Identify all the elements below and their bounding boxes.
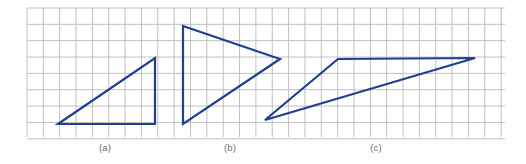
figure-container: (a)(b)(c) [0,0,526,164]
shape-caption-2: (c) [370,142,382,153]
triangle-figure: (a)(b)(c) [0,0,526,164]
shape-caption-1: (b) [224,142,236,153]
shape-caption-0: (a) [99,142,111,153]
